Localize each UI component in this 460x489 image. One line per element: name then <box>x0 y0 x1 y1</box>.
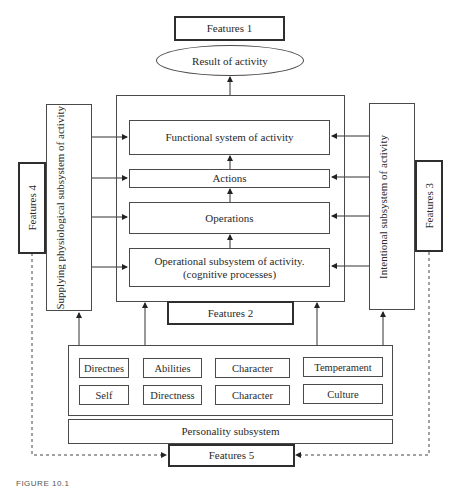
features-4-label: Features 4 <box>26 185 39 231</box>
trait-character-1: Character <box>215 358 290 378</box>
features-5-label: Features 5 <box>209 449 255 462</box>
trait-character-2: Character <box>215 385 290 405</box>
physiological-subsystem-box: Supplying physiological subsystem of act… <box>46 104 92 311</box>
operational-subsystem-label: Operational subsystem of activity. <box>154 255 304 268</box>
physiological-subsystem-label: Supplying physiological subsystem of act… <box>54 106 84 310</box>
personality-traits-container <box>68 345 393 416</box>
figure-caption: FIGURE 10.1 <box>16 479 70 489</box>
trait-abilities: Abilities <box>143 358 202 378</box>
personality-subsystem-box: Personality subsystem <box>68 419 393 444</box>
features-3-label: Features 3 <box>423 183 436 229</box>
trait-self: Self <box>79 385 129 405</box>
operations-box: Operations <box>129 202 330 234</box>
intentional-subsystem-box: Intentional subsystem of activity <box>369 103 415 310</box>
personality-subsystem-label: Personality subsystem <box>181 425 279 438</box>
features-5-box: Features 5 <box>168 444 295 467</box>
trait-culture: Culture <box>303 384 383 404</box>
result-of-activity-ellipse: Result of activity <box>156 45 304 76</box>
functional-system-box: Functional system of activity <box>129 120 330 155</box>
intentional-subsystem-label: Intentional subsystem of activity <box>377 135 407 279</box>
trait-directness: Directness <box>143 385 202 405</box>
trait-directnes: Directnes <box>79 358 129 378</box>
features-2-label: Features 2 <box>208 307 254 320</box>
features-4-box: Features 4 <box>18 162 46 254</box>
trait-temperament: Temperament <box>303 357 383 377</box>
features-1-box: Features 1 <box>174 16 285 41</box>
functional-system-label: Functional system of activity <box>165 131 293 144</box>
features-3-box: Features 3 <box>415 160 443 252</box>
features-2-box: Features 2 <box>167 301 294 325</box>
operational-subsystem-box: Operational subsystem of activity. (cogn… <box>129 248 330 287</box>
actions-label: Actions <box>212 172 246 185</box>
features-1-label: Features 1 <box>207 22 253 35</box>
actions-box: Actions <box>129 169 330 188</box>
operations-label: Operations <box>205 212 253 225</box>
result-label: Result of activity <box>192 55 268 67</box>
cognitive-processes-label: (cognitive processes) <box>183 268 276 281</box>
